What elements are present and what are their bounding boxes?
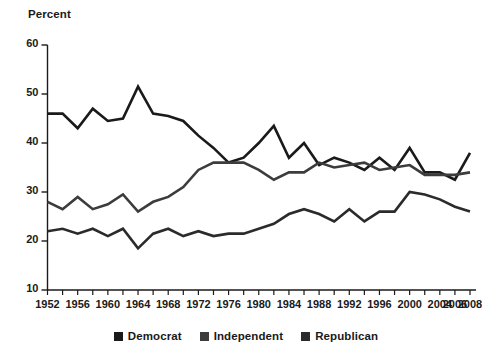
chart-container: Percent 10203040506019521956196019641968…: [0, 0, 492, 362]
legend-item-label: Independent: [214, 330, 283, 342]
legend-swatch-icon: [301, 332, 310, 341]
x-axis-tick-label: 1968: [156, 298, 180, 310]
x-axis-tick-label: 1952: [35, 298, 59, 310]
y-axis-tick-label: 60: [26, 37, 38, 49]
x-axis-tick-label: 1976: [216, 298, 240, 310]
x-axis-tick-label: 1996: [367, 298, 391, 310]
x-axis-tick-label: 1956: [65, 298, 89, 310]
y-axis-tick-label: 20: [26, 233, 38, 245]
legend-item-label: Democrat: [128, 330, 182, 342]
y-axis-tick-label: 10: [26, 282, 38, 294]
x-axis-tick-label: 1964: [126, 298, 151, 310]
chart-legend: DemocratIndependentRepublican: [0, 330, 492, 342]
x-axis-tick-label: 1960: [96, 298, 120, 310]
series-line-independent: [48, 163, 471, 212]
y-axis-tick-label: 40: [26, 135, 38, 147]
x-axis-tick-label: 2008: [458, 298, 482, 310]
line-chart-plot: 1020304050601952195619601964196819721976…: [0, 0, 492, 362]
legend-item-label: Republican: [315, 330, 378, 342]
x-axis-tick-label: 1984: [277, 298, 302, 310]
series-line-republican: [48, 192, 471, 248]
x-axis-tick-label: 1980: [247, 298, 271, 310]
legend-item-republican[interactable]: Republican: [301, 330, 378, 342]
x-axis-tick-label: 1988: [307, 298, 331, 310]
x-axis-tick-label: 2000: [397, 298, 421, 310]
legend-swatch-icon: [200, 332, 209, 341]
legend-item-democrat[interactable]: Democrat: [114, 330, 182, 342]
legend-swatch-icon: [114, 332, 123, 341]
x-axis-tick-label: 1972: [186, 298, 210, 310]
x-axis-tick-label: 1992: [337, 298, 361, 310]
y-axis-tick-label: 50: [26, 86, 38, 98]
legend-item-independent[interactable]: Independent: [200, 330, 283, 342]
y-axis-tick-label: 30: [26, 184, 38, 196]
